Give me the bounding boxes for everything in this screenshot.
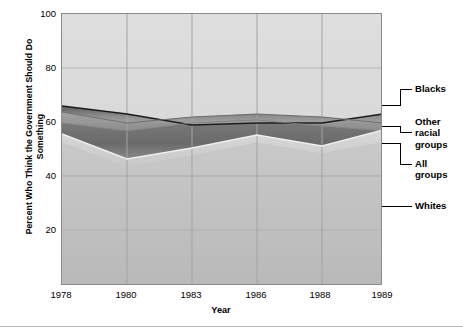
y-tick-label-100: 100 (26, 8, 56, 19)
legend-leader-blacks-horizontal (382, 105, 401, 106)
x-tick-label-1978: 1978 (41, 289, 81, 300)
legend-leader-blacks-vertical (400, 89, 401, 106)
legend-leader-blacks-stub (400, 89, 412, 90)
footer-divider (0, 326, 463, 327)
y-tick-label-40: 40 (26, 170, 56, 181)
legend-leader-allgroups-stub (400, 164, 412, 165)
legend-leader-whites-horizontal (382, 206, 412, 207)
chart-canvas (62, 14, 382, 285)
legend-leader-other-horizontal (382, 126, 401, 127)
chart-root: Percent Who Think the Government Should … (0, 0, 463, 335)
legend-label-whites: Whites (415, 200, 446, 211)
legend-leader-other-stub (400, 132, 412, 133)
y-tick-label-60: 60 (26, 116, 56, 127)
x-tick-label-1989: 1989 (362, 289, 402, 300)
y-tick-label-20: 20 (26, 224, 56, 235)
x-axis-title: Year (161, 305, 281, 315)
legend-label-all-groups: All groups (415, 158, 448, 181)
y-axis-title: Percent Who Think the Government Should … (24, 19, 45, 255)
legend-leader-allgroups-horizontal (382, 143, 401, 144)
y-tick-label-80: 80 (26, 62, 56, 73)
x-tick-label-1988: 1988 (300, 289, 340, 300)
x-tick-label-1983: 1983 (171, 289, 211, 300)
x-tick-label-1980: 1980 (106, 289, 146, 300)
legend-label-blacks: Blacks (415, 83, 446, 94)
plot-area (61, 13, 382, 285)
legend-leader-allgroups-vertical (400, 143, 401, 165)
legend-label-other-racial-groups: Other racial groups (415, 116, 448, 150)
x-tick-label-1986: 1986 (236, 289, 276, 300)
